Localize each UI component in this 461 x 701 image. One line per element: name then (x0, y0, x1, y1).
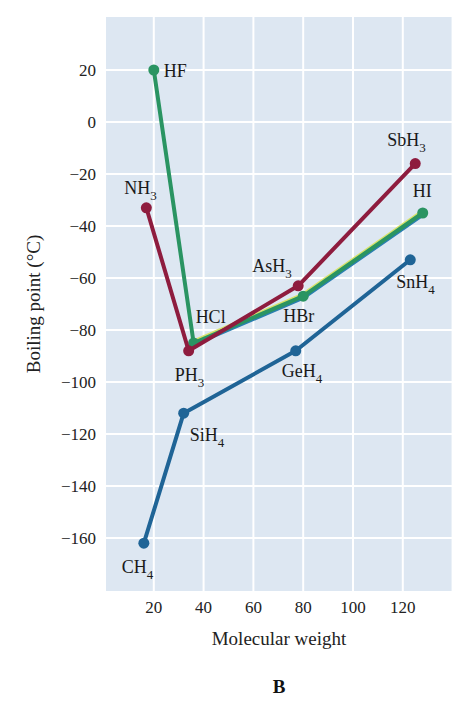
data-point-ph3 (183, 345, 194, 356)
x-tick-label: 60 (245, 598, 262, 617)
x-tick-label: 40 (195, 598, 212, 617)
y-tick-label: −80 (69, 321, 96, 340)
point-label-hbr: HBr (283, 306, 314, 326)
x-axis-title: Molecular weight (212, 628, 347, 649)
data-point-hbr (298, 291, 309, 302)
data-point-hf (148, 65, 159, 76)
data-point-sih4 (178, 408, 189, 419)
x-tick-label: 20 (145, 598, 162, 617)
y-axis-title: Boiling point (°C) (23, 235, 45, 374)
y-tick-label: −60 (69, 269, 96, 288)
y-tick-label: −20 (69, 165, 96, 184)
x-axis-ticks: 20406080100120 (145, 598, 415, 617)
data-point-ash3 (293, 280, 304, 291)
figure-caption: B (273, 676, 286, 697)
data-point-snh4 (405, 254, 416, 265)
point-label-hcl: HCl (196, 307, 226, 327)
data-point-sbh3 (410, 158, 421, 169)
data-point-ch4 (138, 538, 149, 549)
x-tick-label: 100 (340, 598, 366, 617)
point-label-hi: HI (413, 181, 432, 201)
data-point-geh4 (290, 345, 301, 356)
point-label-hf: HF (164, 61, 187, 81)
y-tick-label: 0 (88, 113, 97, 132)
boiling-point-chart: 200−20−40−60−80−100−120−140−160 20406080… (0, 0, 461, 701)
y-tick-label: −120 (61, 425, 96, 444)
x-tick-label: 80 (295, 598, 312, 617)
y-tick-label: −160 (61, 529, 96, 548)
x-tick-label: 120 (390, 598, 416, 617)
y-tick-label: −40 (69, 217, 96, 236)
y-tick-label: −140 (61, 477, 96, 496)
y-axis-ticks: 200−20−40−60−80−100−120−140−160 (61, 61, 96, 548)
y-tick-label: −100 (61, 373, 96, 392)
data-point-nh3 (141, 202, 152, 213)
data-point-hi (417, 208, 428, 219)
y-tick-label: 20 (79, 61, 96, 80)
